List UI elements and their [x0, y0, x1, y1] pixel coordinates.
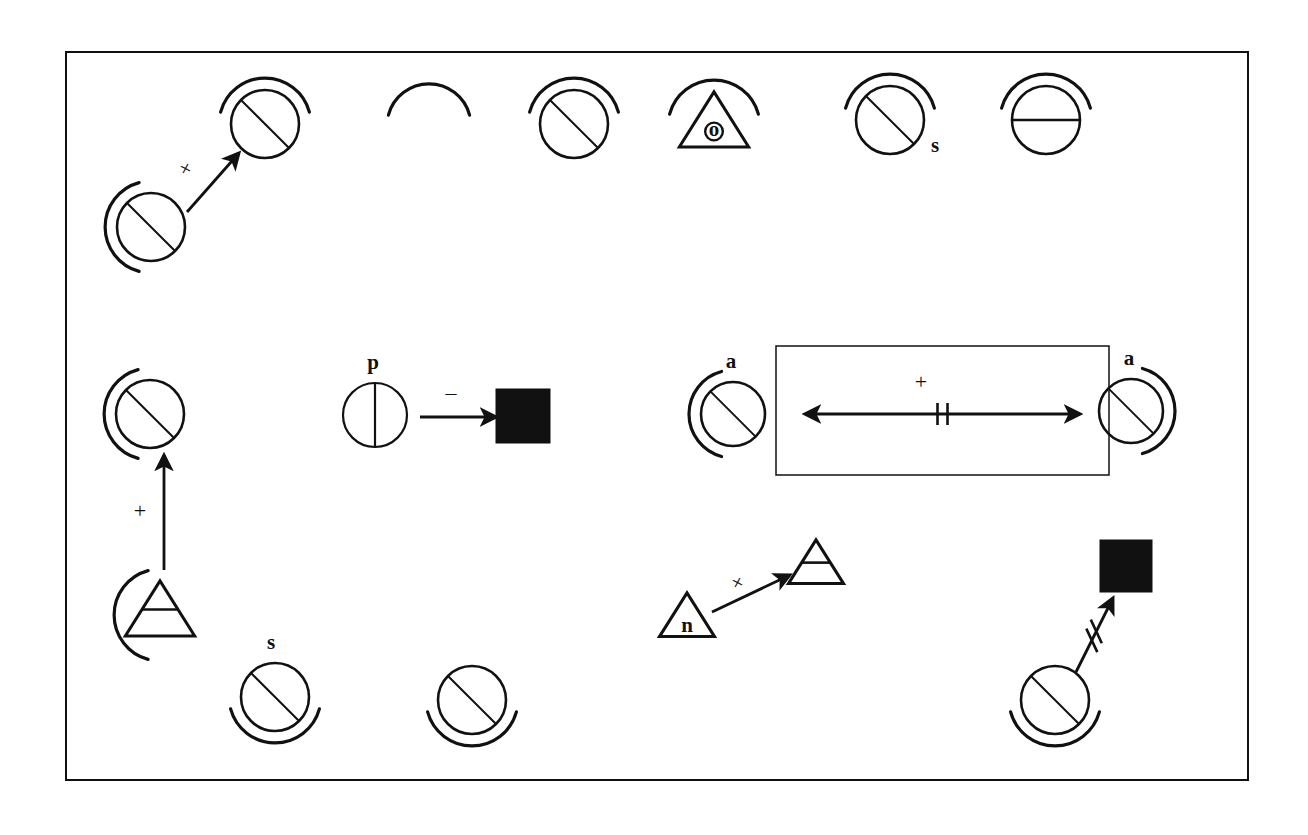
arrow-crossed-bottom-right-line: [1076, 598, 1113, 672]
filled-square-bottom-right-square: [1100, 540, 1152, 592]
circle-diagonal-arc-bottom-s-arc: [231, 709, 320, 743]
circle-diagonal-arc-top-s-arc: [846, 74, 935, 108]
circle-diagonal-arc-bottom-diagonal-line: [448, 676, 496, 724]
circle-diagonal-arc-bottom-s-label: s: [267, 630, 275, 654]
circle-diagonal-arc-bottom-arc: [428, 712, 517, 746]
arrow-minus-center: –: [420, 380, 496, 417]
triangle-bar-arc-left: [114, 571, 195, 660]
circle-diagonal-arc-left-diagonal-line: [127, 203, 175, 251]
nodes-layer: ospaasn: [104, 74, 1175, 746]
circle-diagonal-arc-left-a-diagonal-line: [710, 391, 755, 436]
circle-diagonal-arc-left-a-label: a: [726, 349, 737, 373]
circle-diagonal-arc-left-mid-arc: [104, 370, 138, 459]
circle-diagonal-arc-bottom-br: [1011, 666, 1100, 746]
double-arrow-plus-inner-box: +: [805, 369, 1080, 425]
circle-diagonal-arc-bottom-s: s: [231, 630, 320, 743]
arrow-plus-triangle: +: [712, 571, 790, 612]
triangle-o-arc-label: o: [709, 117, 720, 141]
circle-diagonal-arc-top-diagonal-line: [241, 100, 289, 148]
circle-diagonal-arc-left: [105, 183, 185, 272]
circle-diagonal-arc-bottom-br-arc: [1011, 712, 1100, 746]
lone-arc: [388, 84, 469, 115]
triangle-n: n: [659, 593, 714, 638]
triangle-o-arc-arc: [670, 80, 759, 114]
circle-diagonal-arc-bottom-s-diagonal-line: [251, 673, 299, 721]
circle-diagonal-arc-bottom-br-diagonal-line: [1031, 676, 1079, 724]
arrow-plus-diagonal-top-left-label: +: [171, 157, 199, 180]
circle-diagonal-arc-left-mid-diagonal-line: [126, 390, 174, 438]
arrow-minus-center-label: –: [445, 380, 458, 405]
double-arrow-plus-inner-box-label: +: [915, 369, 927, 394]
circle-diagonal-arc-top-2: [530, 78, 619, 158]
filled-square-center-square: [496, 389, 550, 443]
circle-diagonal-arc-top-2-arc: [530, 78, 619, 112]
circle-vertical-p: p: [343, 350, 407, 447]
triangle-bar-arc-left-arc: [114, 571, 148, 660]
arrow-plus-diagonal-top-left-line: [187, 153, 239, 212]
inner-rectangle: [776, 346, 1109, 475]
filled-square-bottom-right: [1100, 540, 1152, 592]
diagram-canvas: ++–++ ospaasn: [0, 0, 1308, 835]
circle-diagonal-arc-top-arc: [221, 78, 310, 112]
circle-diagonal-arc-top: [221, 78, 310, 158]
circle-diagonal-arc-left-a: a: [689, 349, 765, 457]
circle-diagonal-arc-left-arc: [105, 183, 139, 272]
circle-diagonal-arc-right-a: a: [1099, 346, 1175, 454]
edges-layer: ++–++: [134, 153, 1113, 672]
circle-horizontal-arc-top: [1002, 74, 1091, 154]
triangle-o-arc: o: [670, 80, 759, 147]
triangle-bar-target: [788, 540, 843, 584]
arrow-crossed-bottom-right: [1076, 598, 1113, 672]
circle-diagonal-arc-left-a-arc: [689, 372, 722, 457]
filled-square-center: [496, 389, 550, 443]
circle-diagonal-arc-top-2-diagonal-line: [550, 100, 598, 148]
circle-diagonal-arc-right-a-label: a: [1124, 346, 1135, 370]
circle-diagonal-arc-top-s-diagonal-line: [866, 96, 914, 144]
diagram-page: ++–++ ospaasn: [0, 0, 1308, 835]
lone-arc-arc: [388, 84, 469, 115]
circle-vertical-p-label: p: [367, 350, 379, 374]
arrow-plus-vertical-left-label: +: [134, 498, 146, 523]
circle-diagonal-arc-top-s-label: s: [931, 133, 939, 157]
circle-horizontal-arc-top-arc: [1002, 74, 1091, 108]
circle-diagonal-arc-top-s: s: [846, 74, 939, 157]
circle-diagonal-arc-right-a-diagonal-line: [1108, 388, 1153, 433]
circle-diagonal-arc-right-a-arc: [1142, 369, 1175, 454]
circle-diagonal-arc-left-mid: [104, 370, 184, 459]
circle-diagonal-arc-bottom: [428, 666, 517, 746]
arrow-plus-diagonal-top-left: +: [171, 153, 239, 212]
arrow-plus-vertical-left: +: [134, 455, 164, 570]
arrow-plus-triangle-label: +: [723, 571, 751, 594]
triangle-n-label: n: [681, 613, 693, 637]
